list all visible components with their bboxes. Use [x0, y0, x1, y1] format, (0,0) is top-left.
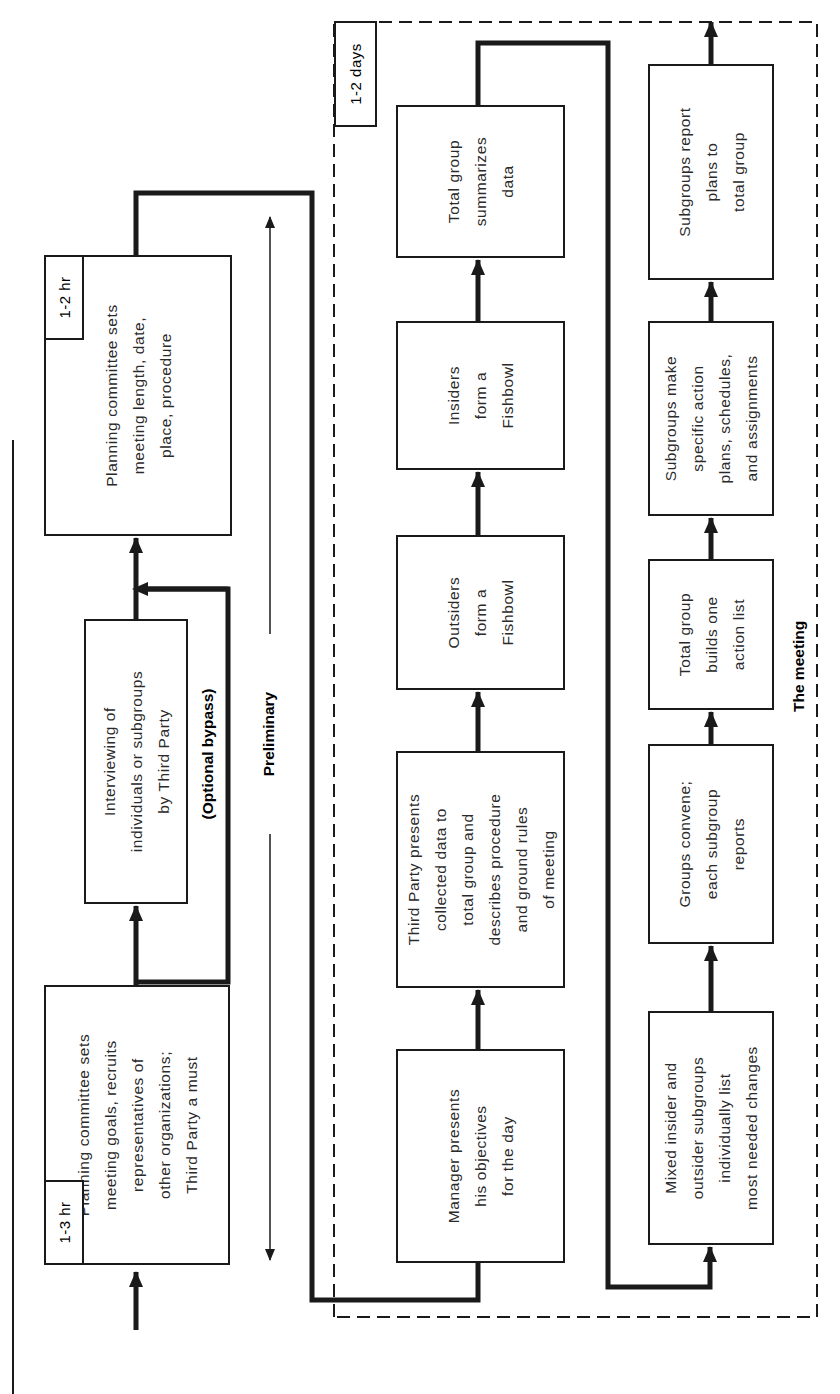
- duration-tag-1-3hr: 1-3 hr: [44, 1180, 84, 1265]
- step-box-manager-objectives: Manager presents his objectives for the …: [396, 1049, 565, 1263]
- optional-bypass-label: (Optional bypass): [199, 664, 217, 844]
- duration-tag-1-2hr: 1-2 hr: [44, 255, 84, 340]
- step-box-subgroups-report: Subgroups report plans to total group: [648, 64, 774, 280]
- step-box-interviewing: Interviewing of individuals or subgroups…: [84, 619, 188, 904]
- step-box-third-party-presents: Third Party presents collected data to t…: [396, 751, 565, 988]
- flowchart: Planning committee sets meeting goals, r…: [0, 0, 840, 1394]
- step-box-groups-convene: Groups convene; each subgroup reports: [648, 744, 774, 944]
- step-box-subgroups-action-plans: Subgroups make specific action plans, sc…: [648, 321, 774, 516]
- step-box-total-group-summarizes: Total group summarizes data: [396, 105, 565, 258]
- step-box-mixed-subgroups: Mixed insider and outsider subgroups ind…: [648, 1011, 774, 1245]
- step-box-insiders-fishbowl: Insiders form a Fishbowl: [396, 321, 565, 470]
- the-meeting-label: The meeting: [790, 617, 808, 716]
- step-box-total-group-action-list: Total group builds one action list: [648, 559, 774, 710]
- duration-tag-1-2days: 1-2 days: [334, 21, 377, 127]
- preliminary-label: Preliminary: [260, 634, 278, 834]
- step-box-outsiders-fishbowl: Outsiders form a Fishbowl: [396, 535, 565, 690]
